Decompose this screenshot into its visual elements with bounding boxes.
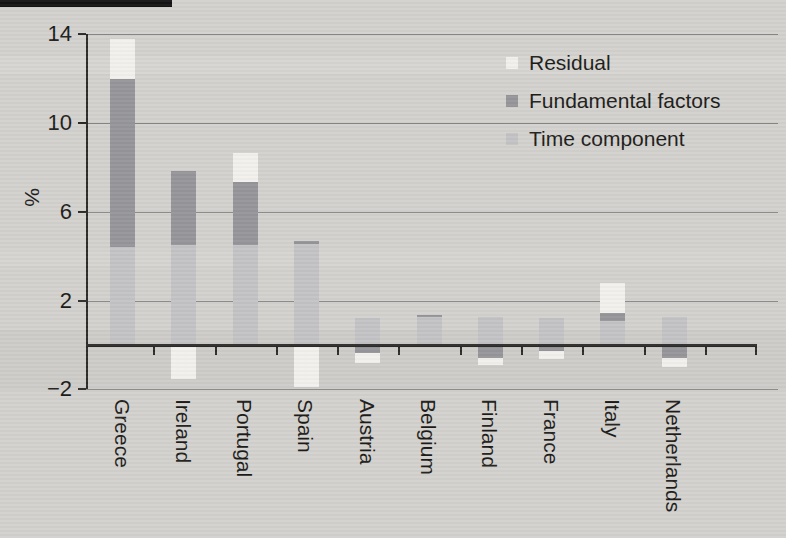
bar-segment [600, 313, 625, 321]
bar-segment [171, 345, 196, 379]
x-tick [644, 347, 646, 355]
category-label: Greece [110, 399, 135, 468]
bar-segment [233, 153, 258, 182]
gridline [86, 34, 778, 35]
x-tick [582, 347, 584, 355]
y-tick [78, 388, 86, 390]
category-label: France [539, 399, 564, 464]
x-tick [215, 347, 217, 355]
x-axis-baseline [86, 344, 757, 347]
category-label: Ireland [171, 399, 196, 463]
y-tick [78, 122, 86, 124]
y-tick [78, 300, 86, 302]
bar-segment [171, 171, 196, 245]
x-tick [337, 347, 339, 355]
legend: ResidualFundamental factorsTime componen… [506, 49, 720, 163]
bar-segment [110, 39, 135, 79]
legend-label: Time component [529, 127, 685, 151]
x-tick [276, 347, 278, 355]
y-tick-label: 2 [26, 289, 72, 313]
category-label: Spain [293, 399, 318, 453]
bar-segment [233, 182, 258, 245]
bar-segment [478, 317, 503, 345]
category-label: Belgium [416, 399, 441, 475]
bar-segment [233, 245, 258, 345]
x-tick [460, 347, 462, 355]
bar-segment [294, 241, 319, 244]
legend-swatch [506, 95, 518, 107]
x-tick [705, 347, 707, 355]
bar-segment [355, 353, 380, 363]
category-label: Austria [355, 399, 380, 464]
gridline [86, 389, 778, 390]
x-tick [521, 347, 523, 355]
legend-item-time-component: Time component [506, 125, 720, 153]
bar-segment [171, 245, 196, 345]
bar-segment [417, 315, 442, 317]
x-tick [755, 347, 757, 355]
bar-segment [662, 317, 687, 345]
bar-segment [662, 358, 687, 367]
bar-segment [110, 247, 135, 345]
bar-segment [110, 79, 135, 248]
bar-segment [294, 345, 319, 387]
category-label: Italy [600, 399, 625, 438]
bar-segment [417, 317, 442, 345]
category-label: Portugal [232, 399, 257, 477]
y-axis-title: % [20, 188, 44, 207]
bar-segment [539, 351, 564, 360]
category-label: Netherlands [661, 399, 686, 512]
y-tick-label: −2 [26, 377, 72, 401]
x-tick [398, 347, 400, 355]
y-tick-label: 10 [26, 111, 72, 135]
x-tick [153, 347, 155, 355]
legend-label: Residual [529, 51, 611, 75]
y-tick-label: 14 [26, 22, 72, 46]
bar-segment [539, 318, 564, 345]
bar-segment [600, 321, 625, 345]
y-axis-line [86, 34, 88, 389]
bar-segment [478, 358, 503, 365]
category-label: Finland [477, 399, 502, 468]
legend-item-residual: Residual [506, 49, 720, 77]
legend-label: Fundamental factors [529, 89, 720, 113]
legend-swatch [506, 57, 518, 69]
legend-item-fundamental-factors: Fundamental factors [506, 87, 720, 115]
y-tick [78, 211, 86, 213]
bar-segment [355, 318, 380, 345]
scanned-chart-figure: 141062−2GreeceIrelandPortugalSpainAustri… [0, 0, 786, 538]
legend-swatch [506, 133, 518, 145]
bar-segment [294, 244, 319, 345]
bar-segment [600, 283, 625, 313]
y-tick [78, 33, 86, 35]
